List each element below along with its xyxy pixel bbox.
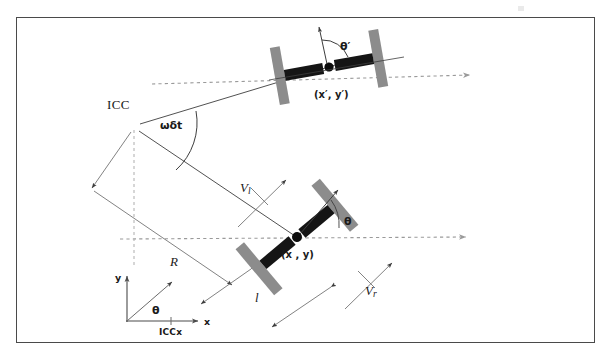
icc-x-label: ICCx <box>159 328 182 337</box>
figure-page: ICC ωδt R l Vl Vr (x , y) (x′, y′) θ θ′ … <box>0 0 615 357</box>
world-axis-upper <box>152 75 470 84</box>
velocity-left-symbol: V <box>240 180 248 195</box>
robot-current-axle-right <box>298 205 334 238</box>
velocity-right-label: Vr <box>365 284 377 299</box>
kinematics-diagram <box>0 0 615 357</box>
velocity-right-subscript: r <box>373 288 377 299</box>
robot-current-pose <box>236 179 359 296</box>
pose-current-label: (x , y) <box>281 250 314 260</box>
radius-label: R <box>170 255 178 268</box>
velocity-right-symbol: V <box>365 283 373 298</box>
frame-axis-x-label: x <box>204 317 210 327</box>
icc-to-current-robot-line <box>139 131 301 240</box>
theta-next-label: θ′ <box>340 41 350 52</box>
frame-axis-y-label: y <box>115 273 121 283</box>
left-radius-construction <box>92 132 232 285</box>
pose-next-label: (x′, y′) <box>314 90 349 100</box>
velocity-left-label: Vl <box>240 181 251 196</box>
frame-theta-label: θ <box>152 305 160 316</box>
frame-theta-ray <box>127 282 172 321</box>
robot-next-heading-arrow <box>319 27 327 64</box>
theta-current-label: θ <box>344 216 352 227</box>
omega-delta-t-label: ωδt <box>160 120 182 131</box>
icc-label: ICC <box>107 98 130 111</box>
velocity-left-subscript: l <box>248 185 251 196</box>
local-coordinate-frame <box>126 276 198 325</box>
wheelbase-label: l <box>255 291 259 304</box>
